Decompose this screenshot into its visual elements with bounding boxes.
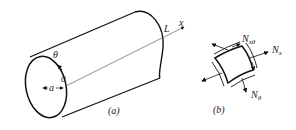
axis-label-x: x — [178, 17, 184, 28]
length-label-L: L — [163, 23, 170, 34]
caption-a: (a) — [108, 105, 120, 117]
Ntheta-arrow-bottom — [242, 78, 246, 92]
Nx-arrow-left — [202, 73, 222, 81]
cylinder-front-end — [20, 53, 72, 122]
label-N-x: Nx — [271, 44, 283, 57]
label-N-xtheta: Nxθ — [241, 33, 256, 46]
left-edge-line — [212, 62, 224, 86]
radius-label-a: a — [49, 82, 54, 93]
label-N-theta: Nθ — [250, 89, 262, 102]
caption-b: (b) — [213, 104, 225, 116]
shell-element-diagram — [202, 42, 268, 92]
angle-label-theta: θ — [53, 49, 58, 60]
x-axis-arrow — [66, 27, 184, 86]
cylinder-top-edge — [30, 12, 135, 57]
Ntheta-arrow-top — [212, 44, 228, 50]
cylinder-diagram — [20, 11, 184, 121]
origin-label: 0 — [61, 74, 66, 84]
figure-canvas: x L θ 0 a (a) Nxθ Nx Nθ (b) — [0, 0, 296, 130]
